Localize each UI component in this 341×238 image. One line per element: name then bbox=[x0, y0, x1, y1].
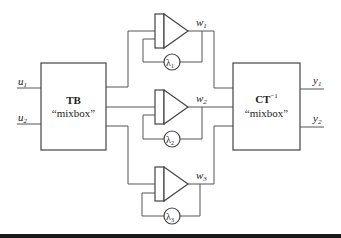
gain-circle-icon: λ2 bbox=[164, 131, 180, 147]
svg-text:w3: w3 bbox=[196, 169, 207, 183]
bottom-rule bbox=[0, 234, 341, 238]
ct-inverse-mixbox: CT−1 “mixbox” bbox=[233, 63, 300, 150]
ct-subtitle: “mixbox” bbox=[245, 107, 288, 119]
svg-text:w1: w1 bbox=[196, 16, 207, 30]
output-y1: y1 bbox=[300, 74, 324, 89]
svg-text:w2: w2 bbox=[196, 92, 207, 106]
gain-circle-icon: λ1 bbox=[164, 54, 180, 70]
tb-title: TB bbox=[66, 94, 81, 106]
amplifier-triangle-icon bbox=[155, 167, 188, 201]
input-u1: u1 bbox=[17, 75, 41, 89]
tb-mixbox: TB “mixbox” bbox=[41, 63, 106, 150]
gain-circle-icon: λ3 bbox=[164, 208, 180, 224]
amplifier-triangle-icon bbox=[155, 90, 188, 124]
svg-text:u1: u1 bbox=[18, 75, 27, 89]
svg-text:y2: y2 bbox=[312, 112, 322, 126]
amplifier-triangle-icon bbox=[155, 14, 188, 48]
input-u2: u2 bbox=[17, 111, 41, 125]
tb-subtitle: “mixbox” bbox=[52, 107, 95, 119]
svg-text:y1: y1 bbox=[312, 74, 321, 88]
channel-1: w1 λ1 bbox=[143, 14, 233, 88]
tb-to-amplifier-wires bbox=[106, 31, 155, 184]
channel-3: w3 λ3 bbox=[142, 126, 233, 224]
output-y2: y2 bbox=[300, 112, 324, 127]
block-diagram: u1 u2 TB “mixbox” w1 λ1 bbox=[0, 0, 341, 238]
channel-2: w2 λ2 bbox=[143, 90, 233, 147]
svg-text:u2: u2 bbox=[18, 111, 28, 125]
